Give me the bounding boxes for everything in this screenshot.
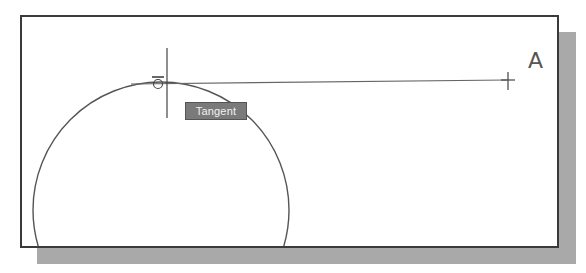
endpoint-cross-icon: [501, 72, 515, 90]
tangent-snap-marker-icon: [152, 77, 164, 89]
point-label-a: A: [528, 50, 543, 72]
drawing-canvas[interactable]: Tangent A: [20, 15, 559, 248]
tangent-line: [131, 80, 507, 84]
snap-tooltip: Tangent: [185, 102, 247, 120]
circle-arc: [33, 82, 289, 246]
drawing-geometry: [22, 17, 557, 246]
